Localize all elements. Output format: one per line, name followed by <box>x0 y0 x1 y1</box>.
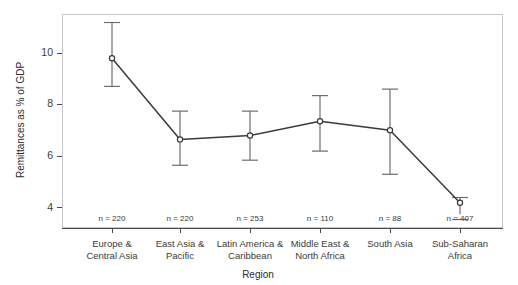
x-tick-label-line2: Pacific <box>166 250 194 261</box>
data-point-marker <box>457 200 462 205</box>
sample-size-label: n = 220 <box>99 214 126 223</box>
y-tick-label: 6 <box>47 149 53 161</box>
x-tick-label-line1: Europe & <box>92 238 132 249</box>
sample-size-label: n = 88 <box>379 214 402 223</box>
sample-size-label: n = 220 <box>167 214 194 223</box>
x-tick-label-line2: Africa <box>448 250 473 261</box>
x-axis-ticks <box>112 228 460 233</box>
data-point-marker <box>317 119 322 124</box>
data-point-marker <box>387 128 392 133</box>
x-axis-labels: Europe & Central Asia East Asia & Pacifi… <box>86 238 488 261</box>
x-tick-label-line1: Latin America & <box>217 238 284 249</box>
data-point-marker <box>109 56 114 61</box>
sample-size-label: n = 110 <box>307 214 334 223</box>
plot-frame <box>63 15 503 228</box>
y-tick-label: 8 <box>47 97 53 109</box>
x-tick-label-line1: Sub-Saharan <box>432 238 488 249</box>
sample-size-label: n = 407 <box>447 214 474 223</box>
remittances-by-region-chart: 10 8 6 4 Remittances as % of GDP <box>0 0 518 285</box>
x-axis-title: Region <box>242 269 274 280</box>
x-tick-label-line1: East Asia & <box>156 238 205 249</box>
x-tick-label-line1: Middle East & <box>291 238 350 249</box>
y-tick-label: 10 <box>41 46 53 58</box>
data-markers <box>109 56 462 206</box>
data-point-marker <box>247 133 252 138</box>
x-tick-label-line2: Central Asia <box>86 250 138 261</box>
sample-size-labels: n = 220 n = 220 n = 253 n = 110 n = 88 n… <box>99 214 474 223</box>
x-tick-label-line2: Caribbean <box>228 250 272 261</box>
x-tick-label-line2: North Africa <box>295 250 345 261</box>
data-point-marker <box>177 137 182 142</box>
y-axis-title: Remittances as % of GDP <box>15 62 26 178</box>
y-tick-label: 4 <box>47 201 53 213</box>
error-bars <box>104 23 468 220</box>
series-line <box>112 58 460 203</box>
chart-canvas: 10 8 6 4 Remittances as % of GDP <box>0 0 518 285</box>
y-axis: 10 8 6 4 <box>41 46 62 213</box>
sample-size-label: n = 253 <box>237 214 264 223</box>
x-tick-label-line1: South Asia <box>367 238 413 249</box>
